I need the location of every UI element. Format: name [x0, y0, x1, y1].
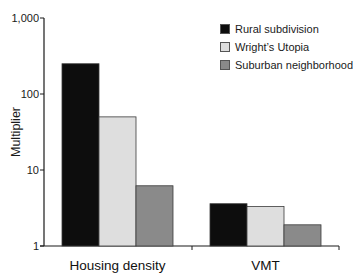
legend-item-rural: Rural subdivision [220, 20, 353, 38]
bars [62, 64, 321, 246]
bar-suburban-neighborhood-0 [136, 186, 173, 246]
bar-rural-subdivision-1 [210, 204, 247, 246]
category-label: Housing density [69, 258, 165, 273]
bar-rural-subdivision-0 [62, 64, 99, 246]
category-label: VMT [251, 258, 280, 273]
legend-swatch-suburban [220, 60, 230, 70]
bar-wright-s-utopia-1 [247, 207, 284, 246]
y-tick-label: 100 [21, 88, 39, 100]
legend-swatch-wright [220, 42, 230, 52]
legend-label-wright: Wright’s Utopia [235, 41, 309, 53]
legend-item-wright: Wright’s Utopia [220, 38, 353, 56]
legend: Rural subdivision Wright’s Utopia Suburb… [220, 20, 353, 74]
legend-label-rural: Rural subdivision [235, 23, 319, 35]
legend-label-suburban: Suburban neighborhood [235, 59, 353, 71]
y-tick-label: 1 [33, 240, 39, 252]
legend-item-suburban: Suburban neighborhood [220, 56, 353, 74]
y-tick-label: 1,000 [11, 12, 39, 24]
bar-suburban-neighborhood-1 [284, 225, 321, 246]
legend-swatch-rural [220, 24, 230, 34]
bar-wright-s-utopia-0 [99, 117, 136, 246]
y-tick-label: 10 [27, 164, 39, 176]
y-axis-label: Multiplier [9, 107, 23, 157]
